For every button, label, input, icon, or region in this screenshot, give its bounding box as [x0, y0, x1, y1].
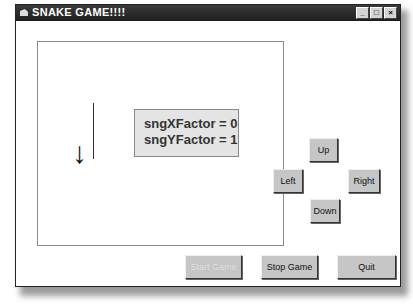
left-button[interactable]: Left	[273, 169, 303, 193]
quit-button[interactable]: Quit	[337, 255, 396, 279]
factor-info-box: sngXFactor = 0 sngYFactor = 1	[134, 109, 239, 157]
maximize-button[interactable]: □	[370, 7, 383, 19]
down-arrow-icon: ↓	[72, 138, 87, 168]
start-game-button[interactable]: Start Game	[185, 255, 242, 279]
up-button[interactable]: Up	[309, 138, 338, 162]
stop-game-button[interactable]: Stop Game	[261, 255, 318, 279]
title-bar[interactable]: SNAKE GAME!!!! _ □ ×	[16, 5, 400, 21]
right-button[interactable]: Right	[348, 169, 380, 193]
y-factor-label: sngYFactor = 1	[144, 132, 238, 148]
snake-game-window: SNAKE GAME!!!! _ □ × ↓ sngXFactor = 0 sn…	[15, 4, 401, 287]
close-button[interactable]: ×	[384, 7, 397, 19]
x-factor-label: sngXFactor = 0	[144, 116, 238, 132]
app-icon	[20, 9, 28, 16]
window-title: SNAKE GAME!!!!	[32, 6, 125, 18]
minimize-button[interactable]: _	[356, 7, 369, 19]
snake-body	[93, 103, 94, 159]
game-area: ↓ sngXFactor = 0 sngYFactor = 1	[37, 41, 284, 246]
down-button[interactable]: Down	[310, 199, 340, 223]
